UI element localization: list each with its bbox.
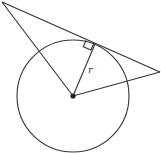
center-point (70, 93, 75, 98)
radius-label: r (88, 64, 94, 75)
line-center-to-right-vertex (73, 72, 160, 96)
line-center-to-left-vertex (2, 2, 73, 96)
tangent-line (2, 2, 160, 72)
tangent-diagram: r (0, 0, 161, 154)
